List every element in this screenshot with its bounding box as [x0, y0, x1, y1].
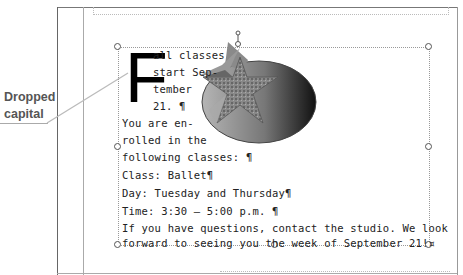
star-oval-image[interactable] — [195, 30, 320, 145]
text-line: tember — [153, 83, 192, 95]
resize-handle-middle-left[interactable] — [114, 143, 121, 150]
text-line: following classes: ¶ — [122, 151, 252, 163]
text-line: If you have questions, contact the studi… — [122, 222, 448, 234]
text-line: all classes — [153, 49, 225, 61]
text-line: start Sep- — [153, 66, 218, 78]
text-line: Time: 3:30 – 5:00 p.m. ¶ — [122, 205, 279, 217]
text-line: You are en- — [122, 117, 194, 129]
text-line: forward to seeing you the week of Septem… — [122, 237, 435, 249]
text-line: 21. ¶ — [153, 100, 186, 112]
resize-handle-top-right[interactable] — [425, 43, 432, 50]
resize-handle-middle-right[interactable] — [425, 143, 432, 150]
text-line: Class: Ballet¶ — [122, 169, 213, 181]
resize-handle-top-left[interactable] — [114, 43, 121, 50]
resize-handle-bottom-left[interactable] — [114, 241, 121, 248]
text-line: Day: Tuesday and Thursday¶ — [122, 187, 292, 199]
text-line: rolled in the — [122, 134, 207, 146]
